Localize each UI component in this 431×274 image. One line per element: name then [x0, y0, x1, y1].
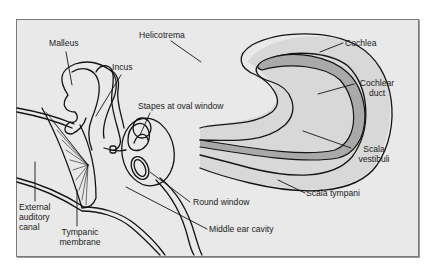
vestibule: [116, 114, 179, 190]
label-scala-vestibuli-line1: Scala: [352, 144, 396, 154]
incus: [96, 66, 120, 151]
label-external-auditory-canal: External auditory canal: [19, 202, 51, 232]
label-stapes: Stapes at oval window: [138, 101, 224, 111]
label-helicotrema: Helicotrema: [139, 30, 185, 40]
label-external-line2: auditory: [19, 212, 51, 222]
label-tympanic-line1: Tympanic: [56, 227, 104, 237]
canal-wall-upper: [17, 108, 74, 124]
leader-helicotrema: [171, 41, 201, 62]
label-scala-vestibuli-line2: vestibuli: [352, 154, 396, 164]
label-external-line1: External: [19, 202, 51, 212]
label-scala-tympani: Scala tympani: [306, 188, 360, 198]
label-tympanic-membrane: Tympanic membrane: [56, 227, 104, 247]
label-middle-ear-cavity: Middle ear cavity: [209, 224, 273, 234]
label-cochlear-duct-line2: duct: [352, 88, 402, 98]
label-cochlea: Cochlea: [345, 38, 377, 48]
label-round-window: Round window: [193, 197, 249, 207]
label-incus: Incus: [112, 62, 133, 72]
leader-middle-ear: [126, 187, 207, 229]
label-cochlear-duct: Cochlear duct: [352, 78, 402, 98]
label-malleus: Malleus: [49, 38, 79, 48]
label-cochlear-duct-line1: Cochlear: [352, 78, 402, 88]
label-scala-vestibuli: Scala vestibuli: [352, 144, 396, 164]
label-external-line3: canal: [19, 222, 51, 232]
label-tympanic-line2: membrane: [56, 237, 104, 247]
